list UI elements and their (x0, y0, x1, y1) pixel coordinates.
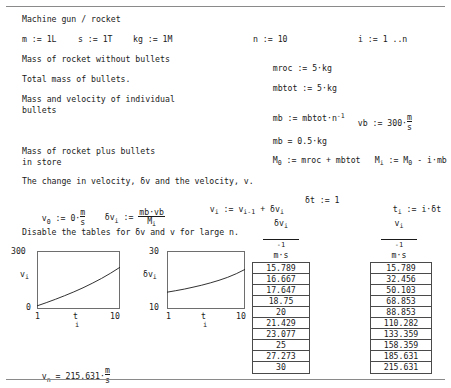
delta-v-table-units: m·s (249, 251, 313, 260)
delta-velocity-plot-xmax: 10 (236, 312, 246, 320)
vb-unit-denominator: s (407, 123, 412, 131)
delta-velocity-plot-xmin: 1 (166, 312, 171, 320)
t-rhs: i·δt (421, 205, 441, 214)
mroc-unit: kg (322, 64, 332, 73)
dv-numerator: mb·vb (138, 208, 165, 216)
table-row[interactable]: 21.429 (253, 318, 309, 329)
velocity-plot-xlabel: t (73, 312, 78, 320)
delta-velocity-plot-xlabel-text: t (201, 311, 206, 321)
vi-rhs2: δv (270, 205, 280, 214)
table-row[interactable]: 15.789 (253, 263, 309, 274)
label-total-mass-line2: in store (22, 158, 61, 167)
worksheet-page: Machine gun / rocket m := 1L s := 1T kg … (0, 0, 451, 388)
delta-v-table-cells[interactable]: 15.789 16.667 17.647 18.75 20 21.429 23.… (252, 262, 310, 374)
table-row[interactable]: 17.647 (253, 285, 309, 296)
velocity-plot-ymin: 0 (26, 303, 31, 311)
velocity-heading: The change in velocity, δv and the veloc… (22, 177, 254, 186)
table-row[interactable]: 158.359 (371, 340, 431, 351)
vi-assign: := (224, 205, 234, 214)
table-row[interactable]: 18.75 (253, 296, 309, 307)
delta-v-table-units-exponent: -1 (249, 242, 313, 249)
velocity-plot-ylabel: vi (20, 270, 29, 281)
delta-v-table-header-rule (263, 239, 299, 240)
Mi-rhs: := M (389, 156, 409, 165)
table-row[interactable]: 215.631 (371, 362, 431, 373)
table-row[interactable]: 30 (253, 362, 309, 373)
velocity-plot-curve (37, 251, 120, 309)
table-row[interactable]: 15.789 (371, 263, 431, 274)
delta-velocity-plot-ylabel-text: δv (143, 269, 153, 279)
label-total-mass-line1: Mass of rocket plus bullets (22, 147, 155, 156)
mb-result-unit: kg (317, 137, 327, 146)
velocity-plot-xlabel-sub: i (75, 322, 79, 329)
table-row[interactable]: 20 (253, 307, 309, 318)
mb-definition: mb := mbtot (273, 114, 327, 123)
table-row[interactable]: 50.103 (371, 285, 431, 296)
def-mbtot[interactable]: mbtot := 5·kg (253, 75, 337, 101)
dv-denominator-wrap: Mi (138, 216, 165, 228)
label-individual-line2: bullets (22, 106, 57, 115)
mbtot-unit: kg (327, 84, 337, 93)
delta-v-table-header-text: δv (274, 218, 284, 228)
def-M0[interactable]: M0 := mroc + mbtot (253, 147, 361, 175)
def-delta-t[interactable]: δt := 1 (305, 196, 340, 205)
velocity-plot-ylabel-sub: i (25, 273, 29, 281)
mb-result: mb = 0.5 (273, 137, 312, 146)
delta-v-table-header: δvi (249, 219, 313, 230)
table-row[interactable]: 25 (253, 340, 309, 351)
dv-assign: := (124, 213, 134, 222)
v-table-cells[interactable]: 15.789 32.456 50.103 68.853 88.853 110.2… (370, 262, 432, 374)
vi-rhs2-subscript: i (280, 208, 284, 216)
def-range-i[interactable]: i := 1 ..n (358, 35, 407, 44)
v-table-units: m·s (367, 251, 431, 260)
M0-rhs: := mroc + mbtot (287, 156, 361, 165)
unit-def-s[interactable]: s := 1T (78, 35, 113, 44)
delta-velocity-plot[interactable]: 30 10 δvi 1 10 t i (125, 246, 245, 341)
unit-def-kg[interactable]: kg := 1M (133, 35, 172, 44)
Mi-rhs-tail: - i·mb (417, 156, 447, 165)
delta-v-table-header-sub: i (284, 222, 288, 230)
final-result-unit-fraction: ms (105, 366, 110, 384)
delta-velocity-plot-curve (167, 251, 245, 309)
table-row[interactable]: 16.667 (253, 274, 309, 285)
v-table-header-rule (381, 239, 417, 240)
table-row[interactable]: 88.853 (371, 307, 431, 318)
delta-velocity-plot-ymax: 30 (149, 247, 159, 255)
table-row[interactable]: 133.359 (371, 329, 431, 340)
v-table-header: vi (367, 219, 431, 230)
table-row[interactable]: 23.077 (253, 329, 309, 340)
top-divider (6, 6, 445, 7)
mroc-assign: := (297, 64, 307, 73)
label-rocket-mass: Mass of rocket without bullets (22, 55, 170, 64)
velocity-plot-xmin: 1 (35, 312, 40, 320)
def-mb[interactable]: mb := mbtot·n-1 (253, 104, 345, 131)
delta-velocity-plot-ylabel-sub: i (153, 273, 157, 281)
page-title: Machine gun / rocket (22, 15, 121, 24)
vb-unit-numerator: m (407, 113, 412, 121)
velocity-plot[interactable]: 300 0 vi 1 10 t i (0, 246, 125, 341)
velocity-plot-ymax: 300 (11, 247, 26, 255)
delta-velocity-plot-ymin: 10 (149, 303, 159, 311)
v0-assign: := (56, 214, 66, 223)
table-row[interactable]: 68.853 (371, 296, 431, 307)
final-result-unit-numerator: m (105, 366, 110, 374)
delta-velocity-plot-xlabel: t (201, 312, 206, 320)
bottom-divider (6, 379, 445, 380)
velocity-plot-xlabel-text: t (73, 311, 78, 321)
unit-def-m[interactable]: m := 1L (22, 35, 57, 44)
def-n[interactable]: n := 10 (253, 35, 288, 44)
vb-definition: vb := 300 (358, 119, 402, 128)
table-row[interactable]: 27.273 (253, 351, 309, 362)
v-table-units-exponent: -1 (367, 242, 431, 249)
table-row[interactable]: 185.631 (371, 351, 431, 362)
def-Mi[interactable]: Mi := M0 - i·mb (355, 147, 447, 175)
table-row[interactable]: 32.456 (371, 274, 431, 285)
v-table-header-sub: i (399, 222, 403, 230)
vi-rhs1-subscript: i-1 (243, 208, 255, 216)
label-bullet-total: Total mass of bullets. (22, 75, 130, 84)
final-result: vn = 215.631·ms (22, 357, 110, 388)
vb-unit-fraction: ms (407, 113, 412, 131)
def-vb[interactable]: vb := 300·ms (338, 104, 412, 140)
table-row[interactable]: 110.282 (371, 318, 431, 329)
dv-fraction: mb·vbMi (138, 208, 165, 228)
